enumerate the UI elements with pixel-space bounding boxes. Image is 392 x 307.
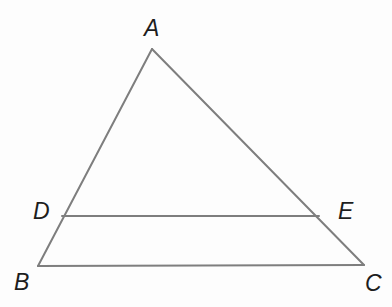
segment-ac xyxy=(152,49,364,265)
geometry-figure: A B C D E xyxy=(0,0,392,307)
triangle-diagram-canvas xyxy=(0,0,392,307)
vertex-label-a: A xyxy=(144,17,159,40)
segment-bc xyxy=(38,265,364,266)
vertex-label-e: E xyxy=(338,200,353,223)
segment-ab xyxy=(38,49,152,266)
vertex-label-b: B xyxy=(14,271,29,294)
vertex-label-d: D xyxy=(33,200,50,223)
vertex-label-c: C xyxy=(365,272,382,295)
